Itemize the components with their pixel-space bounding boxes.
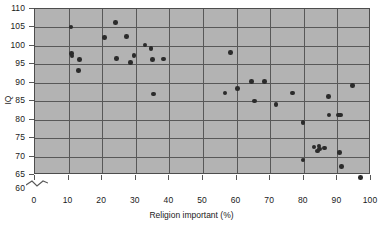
data-point [124,34,129,39]
data-point [339,164,344,169]
x-gridline [237,9,238,173]
x-axis-tick [269,175,270,180]
y-axis-break-icon [26,176,48,190]
y-gridline [35,27,369,28]
x-axis-tick [34,175,35,180]
cropped-header-text [0,0,383,3]
x-gridline [136,9,137,173]
x-axis-tick [135,175,136,180]
y-axis-tick-label: 75 [3,132,25,142]
x-axis-tick-label: 30 [122,195,148,205]
x-axis-tick-label: 50 [189,195,215,205]
scatter-chart: Religion important (%) IQ 60657075808590… [0,0,383,225]
x-axis-tick [303,175,304,180]
x-axis-tick-label: 0 [21,195,47,205]
data-point [132,53,137,58]
x-gridline [203,9,204,173]
y-gridline [35,138,369,139]
y-axis-tick-label: 90 [3,77,25,87]
x-axis-tick [202,175,203,180]
y-gridline [35,120,369,121]
y-gridline [35,64,369,65]
x-axis-tick [168,175,169,180]
y-axis-tick [29,100,34,101]
data-point [317,147,322,152]
data-point [350,83,355,88]
x-gridline [169,9,170,173]
y-axis-tick-label: 60 [3,183,25,193]
y-axis-tick-label: 105 [3,21,25,31]
x-gridline [270,9,271,173]
data-point [262,79,267,84]
y-axis-tick [29,119,34,120]
data-point [274,102,279,107]
y-axis-tick [29,8,34,9]
x-axis-tick [370,175,371,180]
y-axis-tick-label: 85 [3,95,25,105]
data-point [150,57,155,62]
y-axis-tick-label: 80 [3,114,25,124]
y-axis-tick [29,156,34,157]
data-point [128,60,133,65]
y-axis-tick [29,137,34,138]
y-axis-tick-label: 110 [3,3,25,13]
x-axis-tick-label: 40 [155,195,181,205]
data-point [114,56,119,61]
data-point [228,50,233,55]
y-gridline [35,83,369,84]
y-axis-tick-label: 95 [3,58,25,68]
x-axis-tick-label: 90 [323,195,349,205]
x-axis-tick-label: 20 [88,195,114,205]
data-point [76,68,81,73]
data-point [235,86,240,91]
y-gridline [35,46,369,47]
x-axis-tick-label: 70 [256,195,282,205]
x-axis-tick-label: 60 [223,195,249,205]
data-point [252,99,257,104]
data-point [337,150,342,155]
x-axis-tick [68,175,69,180]
data-point [290,91,295,96]
y-gridline [35,101,369,102]
x-axis-tick-label: 80 [290,195,316,205]
y-axis-tick [29,26,34,27]
x-gridline [69,9,70,173]
data-point [113,20,118,25]
x-axis-tick [336,175,337,180]
x-gridline [337,9,338,173]
y-axis-tick [29,45,34,46]
x-axis-tick [236,175,237,180]
data-point [149,46,154,51]
y-axis-tick [29,82,34,83]
y-axis-tick-label: 65 [3,169,25,179]
data-point [151,92,156,97]
x-gridline [304,9,305,173]
x-axis-tick-label: 10 [55,195,81,205]
x-axis-tick-label: 100 [357,195,383,205]
y-axis-tick [29,63,34,64]
y-gridline [35,157,369,158]
x-gridline [102,9,103,173]
data-point [102,35,107,40]
x-axis-title: Religion important (%) [0,210,383,220]
data-point [358,175,363,180]
data-point [301,120,306,125]
data-point [77,57,82,62]
y-axis-tick-label: 70 [3,151,25,161]
y-axis-tick-label: 100 [3,40,25,50]
data-point [326,94,331,99]
data-point [161,57,166,62]
x-axis-tick [101,175,102,180]
